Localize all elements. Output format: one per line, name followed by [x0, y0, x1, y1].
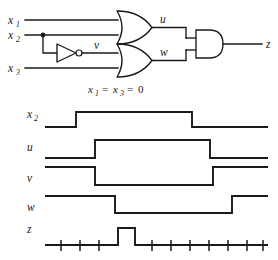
waveform-z-with-glitch: [45, 228, 268, 245]
signal-label-v: v: [94, 39, 100, 51]
input-x1-subscript: 1: [16, 20, 20, 29]
equation-x1-letter: x: [87, 83, 93, 95]
input-x2-letter: x: [7, 29, 14, 41]
timing-row-u: u: [27, 140, 268, 158]
or-gate-bottom: [117, 44, 152, 77]
waveform-v: [45, 167, 268, 185]
and-gate-output: [196, 30, 223, 58]
timing-row-w: w: [27, 196, 268, 213]
logic-figure-svg: x 1 x 2 x 3 v: [0, 0, 278, 260]
input-label-x1: x 1: [7, 14, 20, 29]
wire-x2-branch: [43, 35, 57, 53]
waveform-x2: [45, 112, 268, 127]
timing-label-x2-letter: x: [26, 108, 33, 120]
timing-label-u: u: [27, 141, 33, 153]
timing-label-x2-subscript: 2: [34, 114, 38, 123]
equation-x1-subscript: 1: [95, 89, 99, 98]
figure-container: x 1 x 2 x 3 v: [0, 0, 278, 260]
timing-diagram: x 2 u v w z: [26, 108, 268, 251]
input-label-x3: x 3: [7, 62, 20, 77]
timing-row-x2: x 2: [26, 108, 268, 127]
waveform-w: [45, 196, 268, 213]
or-gate-top: [117, 11, 152, 44]
circuit-diagram: x 1 x 2 x 3 v: [7, 11, 271, 77]
condition-equation: x 1 = x 3 = 0: [87, 83, 144, 98]
equation-equals-2: =: [127, 83, 133, 95]
wire-w: [152, 50, 186, 61]
input-label-x2: x 2: [7, 29, 20, 44]
equation-x3-letter: x: [112, 83, 118, 95]
inverter-triangle-icon: [57, 44, 76, 62]
timing-label-v: v: [27, 172, 33, 184]
signal-label-u: u: [160, 13, 166, 25]
waveform-u: [45, 140, 268, 158]
equation-x3-subscript: 3: [119, 89, 124, 98]
wire-u: [152, 28, 186, 39]
signal-label-w: w: [160, 46, 168, 58]
timing-label-w: w: [27, 201, 35, 213]
timing-label-z: z: [26, 223, 32, 235]
output-label-z: z: [265, 38, 271, 50]
equation-equals-1: =: [102, 83, 108, 95]
junction-dot-x2: [41, 33, 46, 38]
equation-value: 0: [138, 83, 144, 95]
input-x1-letter: x: [7, 14, 14, 26]
timing-row-v: v: [27, 167, 268, 185]
inverter-bubble-icon: [76, 50, 82, 56]
input-x2-subscript: 2: [16, 35, 20, 44]
input-x3-subscript: 3: [15, 68, 20, 77]
timing-row-z: z: [26, 223, 268, 251]
input-x3-letter: x: [7, 62, 14, 74]
